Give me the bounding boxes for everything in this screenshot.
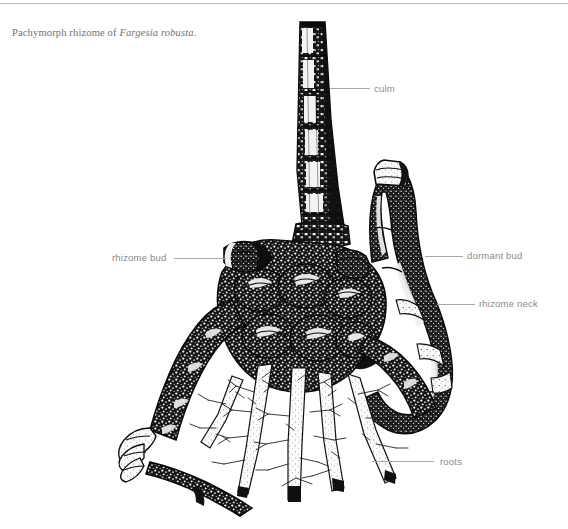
dormant-bud-graphic [374,160,408,186]
label-rhizome-neck: rhizome neck [479,298,538,309]
figure-page: Pachymorph rhizome of Fargesia robusta. [0,0,568,529]
leader-line-culm [330,88,370,89]
left-rhizome-limb-graphic [119,300,252,516]
leader-line-rhizome-neck [437,304,475,305]
leader-line-roots [372,461,434,462]
label-rhizome-bud: rhizome bud [112,252,166,263]
leader-line-rhizome-bud [174,258,226,259]
label-dormant-bud: dormant bud [467,250,523,261]
upper-bud-cluster-graphic [336,250,369,279]
leader-line-dormant-bud [425,256,463,257]
culm-graphic [292,22,350,248]
label-roots: roots [440,456,462,467]
roots-graphic [190,364,408,502]
rhizome-illustration [0,0,568,529]
label-culm: culm [374,83,395,94]
